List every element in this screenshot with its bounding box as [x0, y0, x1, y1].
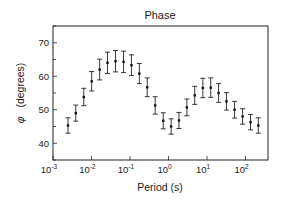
- x-tick-label: 10-1: [118, 163, 135, 175]
- y-axis-unit: (degrees): [14, 63, 26, 108]
- x-tick-label: 101: [196, 163, 211, 175]
- data-point: [240, 109, 245, 124]
- data-point: [81, 88, 86, 105]
- data-point: [184, 99, 189, 116]
- y-tick-label: 70: [38, 37, 49, 48]
- data-point: [73, 105, 78, 121]
- data-point: [256, 118, 261, 133]
- data-point: [113, 50, 118, 71]
- data-point: [145, 78, 150, 97]
- y-tick-label: 40: [38, 138, 49, 149]
- data-point: [105, 52, 110, 73]
- data-point: [161, 113, 166, 129]
- x-tick-label: 100: [157, 163, 172, 175]
- data-point: [169, 119, 174, 134]
- data-point: [200, 78, 205, 97]
- x-axis-label: Period (s): [137, 181, 183, 193]
- data-point: [192, 86, 197, 104]
- data-point: [248, 114, 253, 129]
- plot-frame: [53, 26, 268, 160]
- x-tick-label: 10-3: [41, 163, 58, 175]
- data-series: [65, 50, 260, 134]
- data-point: [121, 51, 126, 72]
- x-tick-label: 102: [234, 163, 249, 175]
- phase-chart: Phase 40506070 10-310-210-1100101102 Per…: [0, 0, 281, 206]
- y-tick-label: 60: [38, 71, 49, 82]
- data-point: [89, 72, 94, 91]
- chart-title: Phase: [144, 9, 175, 21]
- y-axis-label: φ (degrees): [14, 63, 26, 124]
- data-point: [176, 112, 181, 128]
- y-tick-label: 50: [38, 104, 49, 115]
- data-point: [97, 59, 102, 80]
- data-point: [208, 78, 213, 97]
- data-point: [232, 101, 237, 118]
- data-point: [65, 118, 70, 133]
- y-axis: 40506070: [38, 26, 57, 160]
- data-point: [153, 97, 158, 114]
- y-axis-symbol: φ: [14, 116, 26, 123]
- x-axis: 10-310-210-1100101102: [41, 156, 249, 175]
- data-point: [129, 55, 134, 76]
- svg-text:φ (degrees): φ (degrees): [14, 63, 26, 124]
- data-point: [137, 64, 142, 84]
- x-tick-label: 10-2: [79, 163, 96, 175]
- data-point: [216, 84, 221, 103]
- data-point: [224, 93, 229, 110]
